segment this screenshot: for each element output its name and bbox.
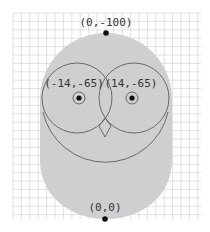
left-eye-label: (-14,-65) (44, 77, 104, 90)
top-point-dot (103, 30, 109, 36)
origin-point-dot (102, 216, 108, 222)
owl-diagram: (0,-100) (-14,-65) (14,-65) (0,0) (0, 0, 210, 232)
origin-point-label: (0,0) (88, 201, 121, 214)
right-pupil-dot (129, 95, 134, 100)
owl-body (40, 33, 172, 219)
top-point-label: (0,-100) (80, 16, 133, 29)
diagram-canvas: (0,-100) (-14,-65) (14,-65) (0,0) (0, 0, 210, 232)
left-pupil-dot (76, 95, 81, 100)
right-eye-label: (14,-65) (105, 77, 158, 90)
